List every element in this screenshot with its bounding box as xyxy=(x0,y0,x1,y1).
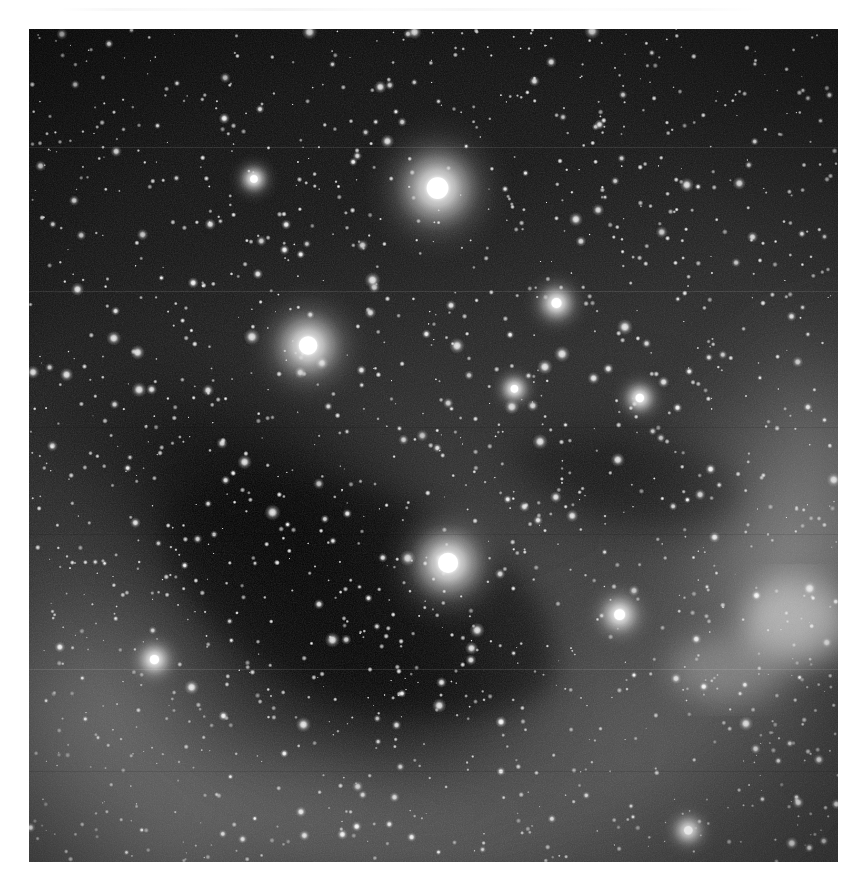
star-field-render xyxy=(29,29,838,862)
star-field-image xyxy=(29,29,838,862)
page-canvas: dense galactic star field with dark nebu… xyxy=(0,0,867,894)
astronomical-photograph-frame xyxy=(29,29,838,862)
scan-edge-artifact-icon xyxy=(60,8,760,11)
